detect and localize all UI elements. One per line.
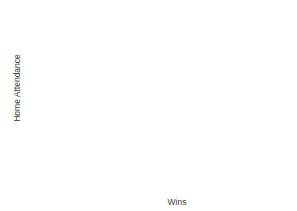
scatter-chart: Wins Home Attendance xyxy=(0,0,297,211)
x-axis-title: Wins xyxy=(168,197,187,207)
y-axis-title: Home Attendance xyxy=(12,54,22,122)
plot-area: Wins Home Attendance xyxy=(0,0,297,211)
